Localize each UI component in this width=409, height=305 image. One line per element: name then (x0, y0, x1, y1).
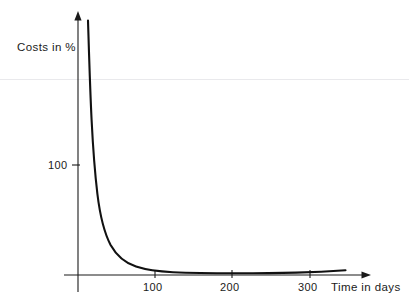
x-axis-label: Time in days (331, 282, 401, 294)
x-tick-label-200: 200 (220, 282, 240, 293)
y-axis-arrow-icon (74, 11, 81, 21)
x-axis-arrow-icon (362, 271, 372, 278)
x-tick-label-300: 300 (298, 282, 318, 293)
cost-curve (88, 21, 346, 274)
y-axis-label: Costs in % (17, 42, 76, 54)
x-tick-label-100: 100 (143, 282, 163, 293)
y-tick-label-100: 100 (48, 160, 68, 171)
cost-decay-chart: Costs in % 100 100 200 300 Time in days (0, 0, 409, 305)
